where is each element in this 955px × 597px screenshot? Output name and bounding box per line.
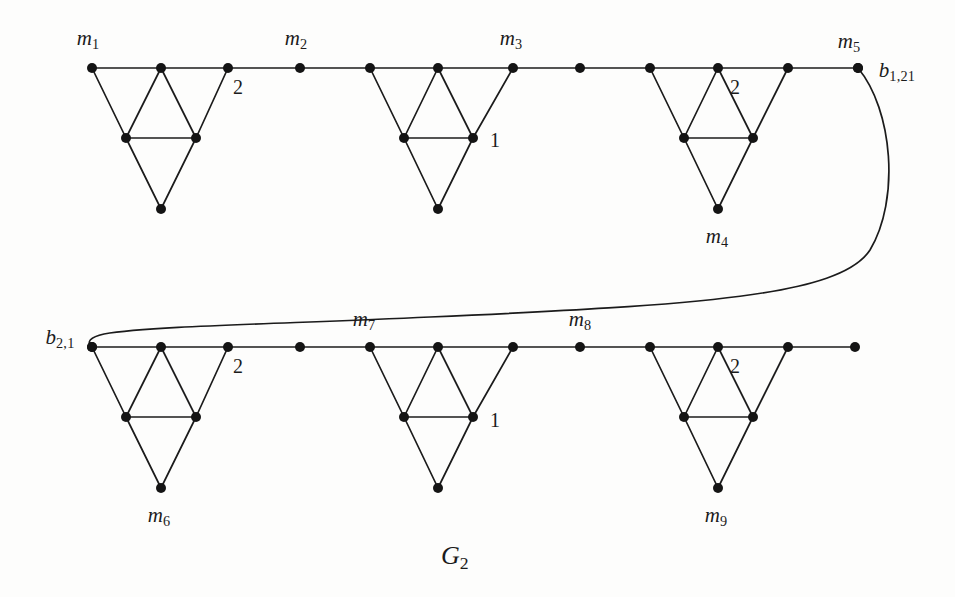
top-row-gadget-edge [753, 68, 788, 138]
top-row-gadget-edge [650, 68, 684, 138]
top-row-gadget-edge [404, 68, 438, 138]
vertex-label-b-2-1: b2,1 [46, 327, 75, 350]
bottom-row-gadget-vertex [191, 412, 201, 422]
bottom-row-gadget-edge [473, 347, 513, 417]
top-row-gadget-edge [370, 68, 404, 138]
bottom-row-path-vertex [433, 342, 443, 352]
bottom-row-gadget-edge [126, 417, 161, 488]
top-row-gadget-edge [684, 68, 718, 138]
vertex-label-b-1-21: b1,21 [879, 60, 915, 83]
top-row-gadget-edge [92, 68, 126, 138]
bottom-row-gadget-edge [718, 417, 753, 488]
graph-drawing [0, 0, 955, 597]
top-row-path-vertex [575, 63, 585, 73]
top-row-gadget-vertex [468, 133, 478, 143]
top-row-path-vertex [433, 63, 443, 73]
bottom-row-gadget-edge [684, 347, 718, 417]
vertex-label-m2: m2 [285, 28, 308, 51]
top-row-path-vertex [365, 63, 375, 73]
bottom-row-gadget-edge [684, 417, 718, 488]
bottom-row-gadget-vertex [121, 412, 131, 422]
top-row-gadget-edge [126, 138, 161, 209]
weight-bottom-gadget-2: 1 [490, 410, 500, 430]
bottom-row-gadget-edge [161, 417, 196, 488]
vertex-label-m8: m8 [569, 309, 592, 332]
vertex-label-m5: m5 [838, 31, 861, 54]
bottom-row-gadget-vertex [679, 412, 689, 422]
bottom-row-path-vertex [713, 342, 723, 352]
top-row-gadget-edge [196, 68, 228, 138]
bottom-row-path-vertex [156, 342, 166, 352]
vertex-label-m9: m9 [705, 505, 728, 528]
bottom-row-gadget-edge [404, 417, 438, 488]
bottom-row-gadget-edge [404, 347, 438, 417]
top-row-gadget-edge [438, 138, 473, 209]
bottom-row-path-vertex [508, 342, 518, 352]
bottom-row-path-vertex [365, 342, 375, 352]
top-row-path-vertex [223, 63, 233, 73]
bottom-row-path-vertex [850, 342, 860, 352]
bottom-row-gadget-apex-vertex [156, 483, 166, 493]
top-row-path-vertex [508, 63, 518, 73]
bottom-row-gadget-edge [370, 347, 404, 417]
bottom-row-gadget-edge [438, 417, 473, 488]
top-row-gadget-edge [126, 68, 161, 138]
top-row-gadget-vertex [748, 133, 758, 143]
bottom-row-gadget-edge [126, 347, 161, 417]
top-row-path-vertex [295, 63, 305, 73]
top-row-gadget-vertex [191, 133, 201, 143]
top-row-gadget-edge [718, 138, 753, 209]
bottom-row-path-vertex [783, 342, 793, 352]
top-row-gadget-vertex [121, 133, 131, 143]
top-row-path-vertex [713, 63, 723, 73]
top-row-gadget-apex-vertex [433, 204, 443, 214]
top-row-gadget-edge [684, 138, 718, 209]
top-row-gadget-edge [404, 138, 438, 209]
vertex-b-2-1 [87, 342, 97, 352]
bottom-row-gadget-vertex [399, 412, 409, 422]
top-row-path-vertex [87, 63, 97, 73]
figure-canvas: m1 m2 m3 m4 m5 m6 m7 m8 m9 b1,21 b2,1 21… [0, 0, 955, 597]
vertex-b-1-21 [853, 63, 863, 73]
vertex-label-m7: m7 [353, 309, 376, 332]
top-row-path-vertex [156, 63, 166, 73]
bottom-row-gadget-vertex [468, 412, 478, 422]
bottom-row-path-vertex [295, 342, 305, 352]
top-row-path-vertex [645, 63, 655, 73]
top-row-gadget-vertex [399, 133, 409, 143]
figure-caption: G2 [441, 543, 469, 573]
weight-bottom-gadget-1: 2 [233, 356, 243, 376]
vertex-label-m6: m6 [148, 505, 171, 528]
bottom-row-gadget-edge [161, 347, 196, 417]
top-row-gadget-edge [473, 68, 513, 138]
vertex-label-m1: m1 [77, 28, 100, 51]
vertex-label-m4: m4 [706, 226, 729, 249]
bottom-row-path-vertex [223, 342, 233, 352]
top-row-gadget-edge [438, 68, 473, 138]
top-row-gadget-apex-vertex [713, 204, 723, 214]
bottom-row-gadget-vertex [748, 412, 758, 422]
top-row-gadget-vertex [679, 133, 689, 143]
top-row-gadget-apex-vertex [156, 204, 166, 214]
bottom-row-gadget-apex-vertex [713, 483, 723, 493]
bottom-row-gadget-edge [196, 347, 228, 417]
bottom-row-path-vertex [575, 342, 585, 352]
bottom-row-gadget-edge [92, 347, 126, 417]
bottom-row-gadget-edge [650, 347, 684, 417]
bottom-row-gadget-apex-vertex [433, 483, 443, 493]
weight-top-gadget-2: 1 [490, 130, 500, 150]
top-row-path-vertex [783, 63, 793, 73]
top-row-gadget-edge [161, 68, 196, 138]
weight-top-gadget-3: 2 [730, 77, 740, 97]
weight-top-gadget-1: 2 [233, 77, 243, 97]
bottom-row-path-vertex [645, 342, 655, 352]
bottom-row-gadget-edge [753, 347, 788, 417]
top-row-gadget-edge [161, 138, 196, 209]
bottom-row-gadget-edge [438, 347, 473, 417]
vertex-label-m3: m3 [500, 28, 523, 51]
weight-bottom-gadget-3: 2 [730, 356, 740, 376]
